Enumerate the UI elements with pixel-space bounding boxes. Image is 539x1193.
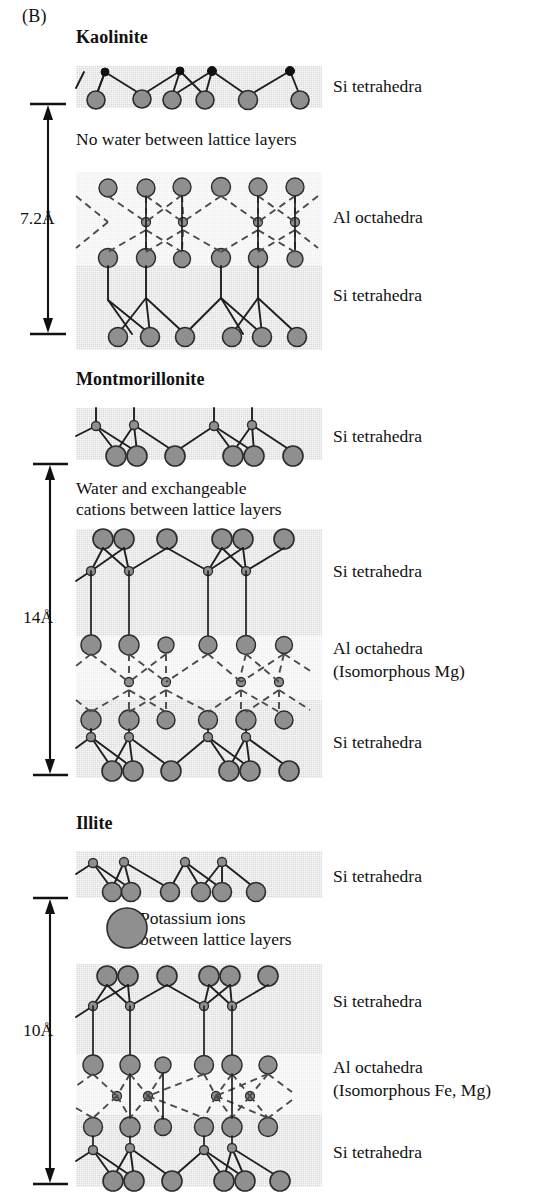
layer-label-kaolinite-si-top: Si tetrahedra bbox=[333, 76, 422, 97]
interlayer-note-mont-line1: Water and exchangeable bbox=[76, 478, 247, 499]
band-kaolinite-al bbox=[76, 172, 322, 265]
mineral-title-kaolinite: Kaolinite bbox=[76, 27, 148, 48]
interlayer-note-illite-line1: Potassium ions bbox=[140, 908, 246, 929]
layer-sublabel-illite-al: (Isomorphous Fe, Mg) bbox=[333, 1080, 491, 1101]
layer-label-mont-si-upper: Si tetrahedra bbox=[333, 561, 422, 582]
band-mont-si-upper bbox=[76, 529, 322, 636]
mineral-title-illite: Illite bbox=[76, 813, 113, 834]
band-mont-si-top bbox=[76, 408, 322, 460]
interlayer-note-kaolinite: No water between lattice layers bbox=[76, 129, 297, 150]
layer-label-mont-si-bottom: Si tetrahedra bbox=[333, 732, 422, 753]
layer-label-kaolinite-al: Al octahedra bbox=[333, 207, 423, 228]
band-illite-si-top bbox=[76, 851, 322, 898]
mineral-title-montmorillonite: Montmorillonite bbox=[76, 369, 204, 390]
panel-letter: (B) bbox=[22, 6, 47, 27]
band-mont-si-bottom bbox=[76, 700, 322, 778]
layer-label-mont-al: Al octahedra bbox=[333, 638, 423, 659]
layer-sublabel-mont-al: (Isomorphous Mg) bbox=[333, 661, 465, 682]
interlayer-note-mont-line2: cations between lattice layers bbox=[76, 499, 282, 520]
layer-label-mont-si-top: Si tetrahedra bbox=[333, 426, 422, 447]
layer-label-kaolinite-si-bottom: Si tetrahedra bbox=[333, 285, 422, 306]
clay-mineral-diagram: (B) Kaolinite Si tetrahedra Al octahedra… bbox=[0, 0, 539, 1193]
spacing-label-kaolinite: 7.2Å bbox=[20, 208, 55, 229]
band-illite-si-bottom bbox=[76, 1114, 322, 1187]
interlayer-note-illite-line2: between lattice layers bbox=[140, 929, 292, 950]
dimension-arrow-illite bbox=[33, 898, 68, 1184]
band-illite-si-upper bbox=[76, 964, 322, 1054]
layer-label-illite-si-upper: Si tetrahedra bbox=[333, 991, 422, 1012]
layer-label-illite-si-bottom: Si tetrahedra bbox=[333, 1142, 422, 1163]
spacing-label-montmorillonite: 14Å bbox=[23, 607, 53, 628]
layer-label-illite-al: Al octahedra bbox=[333, 1057, 423, 1078]
spacing-label-illite: 10Å bbox=[23, 1020, 53, 1041]
band-kaolinite-si-bottom bbox=[76, 265, 322, 350]
band-kaolinite-si-top bbox=[76, 66, 322, 108]
layer-label-illite-si-top: Si tetrahedra bbox=[333, 866, 422, 887]
